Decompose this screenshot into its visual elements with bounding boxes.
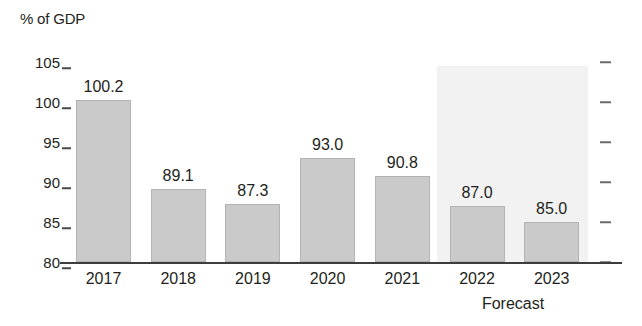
x-axis-tick-label: 2020 (310, 271, 346, 287)
bar-2020 (300, 158, 355, 262)
y-axis-tick-label: 100 (14, 95, 60, 110)
bar-2022 (450, 206, 505, 262)
y-axis-tick-mark-right (600, 61, 611, 63)
x-axis-tick-label: 2018 (160, 271, 196, 287)
bar-value-label: 87.3 (237, 183, 268, 199)
y-axis-tick-mark (62, 107, 71, 109)
y-axis-tick-label: 80 (14, 255, 60, 270)
bar-value-label: 93.0 (312, 137, 343, 153)
bar-value-label: 89.1 (163, 168, 194, 184)
y-axis-tick-label: 105 (14, 55, 60, 70)
y-axis-tick-label: 95 (14, 135, 60, 150)
y-axis-tick-label: 90 (14, 175, 60, 190)
y-axis-tick-label: 85 (14, 215, 60, 230)
y-axis-tick-mark (62, 187, 71, 189)
bar-2019 (225, 204, 280, 262)
x-axis-tick-label: 2021 (385, 271, 421, 287)
y-axis-tick-mark-right (600, 221, 611, 223)
bar-value-label: 85.0 (536, 201, 567, 217)
x-axis-baseline (60, 262, 622, 264)
y-axis-tick-mark (62, 67, 71, 69)
x-axis-tick-label: 2017 (86, 271, 122, 287)
plot-area: 80859095100105100.2201789.1201887.320199… (0, 0, 642, 326)
y-axis-tick-mark (62, 267, 71, 269)
bar-2023 (524, 222, 579, 262)
y-axis-tick-mark-right (600, 141, 611, 143)
bar-2021 (375, 176, 430, 262)
y-axis-tick-mark (62, 147, 71, 149)
x-axis-tick-label: 2019 (235, 271, 271, 287)
forecast-annotation-label: Forecast (482, 296, 544, 312)
y-axis-tick-mark-right (600, 101, 611, 103)
bar-value-label: 90.8 (387, 155, 418, 171)
y-axis-tick-mark (62, 227, 71, 229)
x-axis-tick-label: 2023 (534, 271, 570, 287)
y-axis-tick-mark-right (600, 181, 611, 183)
bar-2018 (151, 189, 206, 262)
bar-value-label: 100.2 (83, 79, 123, 95)
bar-chart: % of GDP 80859095100105100.2201789.12018… (0, 0, 642, 326)
bar-value-label: 87.0 (461, 185, 492, 201)
bar-2017 (76, 100, 131, 262)
x-axis-tick-label: 2022 (459, 271, 495, 287)
